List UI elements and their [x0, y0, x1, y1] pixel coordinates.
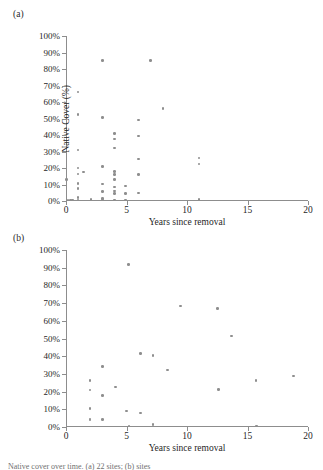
y-tick-a — [62, 135, 66, 136]
y-tick-b — [62, 356, 66, 357]
data-point — [125, 410, 128, 413]
y-tick-label-b: 60% — [44, 316, 61, 325]
y-tick-label-b: 10% — [44, 405, 61, 414]
data-point — [77, 182, 80, 185]
x-tick-label-a: 15 — [243, 206, 253, 216]
panel-b-label: (b) — [13, 234, 24, 244]
data-point — [101, 418, 104, 421]
y-tick-a — [62, 69, 66, 70]
data-point — [89, 389, 92, 392]
x-tick-label-b: 5 — [124, 432, 129, 442]
data-point — [113, 138, 116, 141]
data-point — [113, 173, 116, 176]
data-point — [255, 379, 258, 382]
scatter-plot-a: Native Cover (%) Years since removal 0%1… — [66, 36, 308, 201]
y-tick-label-b: 20% — [44, 387, 61, 396]
x-tick-label-b: 15 — [243, 432, 253, 442]
data-point — [101, 199, 104, 202]
data-point — [255, 425, 258, 428]
y-tick-b — [62, 339, 66, 340]
data-point — [89, 379, 92, 382]
data-point — [101, 183, 104, 186]
data-point — [128, 425, 131, 428]
y-tick-label-b: 40% — [44, 352, 61, 361]
y-tick-label-b: 90% — [44, 263, 61, 272]
data-point — [89, 407, 92, 410]
y-tick-a — [62, 102, 66, 103]
data-point — [65, 178, 68, 181]
data-point — [139, 352, 142, 355]
data-point — [89, 419, 92, 422]
y-tick-label-b: 30% — [44, 369, 61, 378]
panel-a-label: (a) — [13, 10, 24, 20]
y-tick-label-a: 90% — [44, 48, 61, 57]
y-tick-b — [62, 392, 66, 393]
data-point — [101, 116, 104, 119]
y-tick-label-a: 100% — [39, 32, 60, 41]
data-point — [101, 165, 104, 168]
data-point — [124, 185, 127, 188]
y-tick-label-a: 20% — [44, 164, 61, 173]
x-tick-label-a: 20 — [303, 206, 313, 216]
x-tick-label-b: 10 — [182, 432, 192, 442]
data-point — [77, 187, 80, 190]
data-point — [114, 386, 117, 389]
data-point — [77, 173, 80, 176]
y-tick-a — [62, 119, 66, 120]
data-point — [137, 173, 140, 176]
data-point — [113, 178, 116, 181]
data-point — [77, 149, 80, 152]
y-tick-label-a: 10% — [44, 180, 61, 189]
data-point — [124, 192, 127, 195]
data-point — [82, 171, 85, 174]
data-point — [198, 163, 201, 166]
data-point — [113, 186, 116, 189]
y-tick-b — [62, 250, 66, 251]
x-tick-label-a: 10 — [182, 206, 192, 216]
data-point — [77, 167, 80, 170]
data-point — [113, 132, 116, 135]
x-tick-label-b: 0 — [64, 432, 69, 442]
y-tick-b — [62, 374, 66, 375]
data-point — [139, 412, 142, 415]
data-point — [101, 190, 104, 193]
y-tick-b — [62, 268, 66, 269]
data-point — [71, 199, 74, 202]
data-point — [292, 375, 295, 378]
x-tick-label-a: 5 — [124, 206, 129, 216]
data-point — [90, 198, 93, 201]
y-tick-label-b: 50% — [44, 334, 61, 343]
data-point — [217, 388, 220, 391]
data-point — [101, 394, 104, 397]
data-point — [152, 354, 155, 357]
data-point — [216, 307, 219, 310]
x-axis-title-a: Years since removal — [66, 218, 308, 228]
y-tick-a — [62, 36, 66, 37]
data-point — [77, 91, 80, 94]
y-tick-b — [62, 303, 66, 304]
panel-b: (b) Years since removal 0%10%20%30%40%50… — [0, 228, 323, 456]
data-point — [77, 113, 80, 116]
y-tick-a — [62, 53, 66, 54]
data-point — [166, 369, 169, 372]
data-point — [137, 158, 140, 161]
panel-a: (a) Native Cover (%) Years since removal… — [0, 0, 323, 228]
data-point — [113, 192, 116, 195]
y-tick-label-a: 30% — [44, 147, 61, 156]
y-tick-a — [62, 185, 66, 186]
y-tick-a — [62, 152, 66, 153]
data-point — [149, 59, 152, 62]
data-point — [230, 335, 233, 338]
y-tick-label-b: 0% — [48, 423, 60, 432]
figure-caption: Native cover over time. (a) 22 sites; (b… — [8, 462, 318, 470]
y-tick-label-b: 80% — [44, 281, 61, 290]
y-tick-label-a: 50% — [44, 114, 61, 123]
y-tick-label-a: 40% — [44, 131, 61, 140]
data-point — [137, 135, 140, 138]
data-point — [198, 157, 201, 160]
data-point — [162, 107, 165, 110]
data-point — [101, 365, 104, 368]
x-tick-label-b: 20 — [303, 432, 313, 442]
y-tick-label-b: 70% — [44, 299, 61, 308]
y-tick-label-a: 60% — [44, 98, 61, 107]
